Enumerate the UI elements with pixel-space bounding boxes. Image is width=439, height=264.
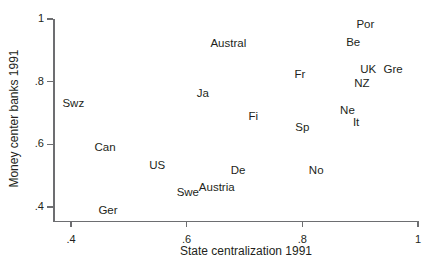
- data-point-label: De: [231, 166, 246, 178]
- x-tick-mark: [186, 221, 188, 227]
- y-axis-title-holder: Money center banks 1991: [2, 222, 18, 264]
- data-point-label: Sp: [295, 123, 309, 135]
- data-point-label: Ja: [197, 88, 209, 100]
- data-point-label: Por: [356, 19, 374, 31]
- y-axis-line: [53, 19, 55, 222]
- data-point-label: Austria: [199, 182, 235, 194]
- y-tick-mark: [47, 206, 53, 208]
- data-point-label: No: [309, 166, 324, 178]
- data-point-label: NZ: [354, 78, 369, 90]
- data-point-label: Austral: [210, 38, 246, 50]
- data-point-label: Fr: [295, 69, 306, 81]
- data-point-label: Gre: [384, 64, 403, 76]
- data-point-label: UK: [360, 64, 376, 76]
- data-point-label: Ger: [98, 205, 117, 217]
- y-axis-title: Money center banks 1991: [6, 15, 22, 222]
- scatter-plot-figure: .4.6.81 .4.6.81 SwzCanUSGerJaSweAustralF…: [0, 0, 439, 264]
- x-axis-title: State centralization 1991: [0, 244, 439, 258]
- data-point-label: Swz: [62, 98, 84, 110]
- x-tick-mark: [417, 221, 419, 227]
- x-tick-mark: [302, 221, 304, 227]
- x-axis-line: [53, 221, 419, 223]
- y-tick-mark: [47, 144, 53, 146]
- data-point-label: Be: [346, 37, 360, 49]
- x-tick-mark: [70, 221, 72, 227]
- data-point-label: US: [149, 161, 165, 173]
- data-point-label: Swe: [177, 187, 199, 199]
- y-tick-mark: [47, 18, 53, 20]
- data-point-label: Can: [95, 143, 116, 155]
- data-point-label: It: [353, 117, 359, 129]
- y-tick-mark: [47, 81, 53, 83]
- data-point-label: Fi: [248, 112, 258, 124]
